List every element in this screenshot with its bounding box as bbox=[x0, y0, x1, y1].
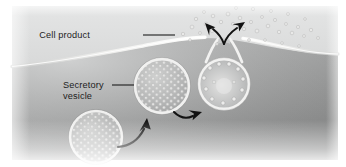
label-cell-product: Cell product bbox=[39, 30, 90, 40]
fade-right bbox=[326, 0, 346, 167]
diagram-canvas: Cell product Secretory vesicle bbox=[0, 0, 346, 167]
label-secretory-vesicle-line1: Secretory bbox=[63, 80, 104, 90]
fade-left bbox=[0, 0, 30, 167]
fade-top bbox=[0, 0, 346, 16]
label-secretory-vesicle-line2: vesicle bbox=[63, 91, 92, 101]
fade-bottom bbox=[0, 120, 346, 167]
exocytosis-diagram: Cell product Secretory vesicle bbox=[0, 0, 346, 167]
